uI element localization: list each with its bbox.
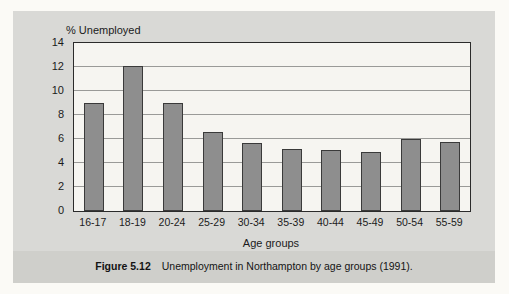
- x-axis-title: Age groups: [73, 237, 469, 249]
- bar: [242, 143, 262, 211]
- caption-band: Figure 5.12Unemployment in Northampton b…: [13, 251, 495, 283]
- bar-slot: [153, 43, 193, 211]
- x-axis-tick: 18-19: [119, 216, 146, 228]
- bar-slot: [74, 43, 114, 211]
- x-axis-tick-labels: 16-1718-1920-2425-2930-3435-3940-4445-49…: [73, 216, 469, 234]
- bar-slot: [193, 43, 233, 211]
- x-axis-tick: 55-59: [436, 216, 463, 228]
- bar-slot: [312, 43, 352, 211]
- bar-series: [74, 43, 470, 211]
- x-axis-tick: 50-54: [396, 216, 423, 228]
- x-axis-tick: 45-49: [357, 216, 384, 228]
- x-axis-tick: 35-39: [277, 216, 304, 228]
- y-axis-tick: 4: [58, 156, 64, 168]
- y-axis-tick: 0: [58, 204, 64, 216]
- bar-chart: % Unemployed 02468101214 16-1718-1920-24…: [13, 11, 495, 251]
- bar: [282, 149, 302, 211]
- bar: [440, 142, 460, 211]
- bar: [401, 139, 421, 211]
- y-axis-tick: 14: [52, 36, 64, 48]
- y-axis-tick: 12: [52, 60, 64, 72]
- figure-panel: % Unemployed 02468101214 16-1718-1920-24…: [13, 11, 495, 283]
- y-axis-tick: 2: [58, 180, 64, 192]
- figure-caption: Figure 5.12Unemployment in Northampton b…: [13, 260, 495, 272]
- bar: [163, 103, 183, 211]
- bar: [84, 103, 104, 211]
- bar-slot: [272, 43, 312, 211]
- bar-slot: [391, 43, 431, 211]
- y-axis-tick: 8: [58, 108, 64, 120]
- bar: [203, 132, 223, 211]
- y-axis-title: % Unemployed: [66, 24, 141, 36]
- y-axis-tick-labels: 02468101214: [13, 11, 73, 251]
- x-axis-tick: 30-34: [238, 216, 265, 228]
- bar-slot: [351, 43, 391, 211]
- x-axis-tick: 16-17: [79, 216, 106, 228]
- bar-slot: [232, 43, 272, 211]
- y-axis-tick: 6: [58, 132, 64, 144]
- y-axis-tick: 10: [52, 84, 64, 96]
- figure-caption-text: Unemployment in Northampton by age group…: [162, 260, 413, 272]
- bar-slot: [430, 43, 470, 211]
- bar: [361, 152, 381, 211]
- x-axis-tick: 25-29: [198, 216, 225, 228]
- plot-area: [73, 42, 471, 212]
- bar-slot: [114, 43, 154, 211]
- bar: [321, 150, 341, 211]
- x-axis-tick: 20-24: [159, 216, 186, 228]
- figure-caption-label: Figure 5.12: [95, 260, 150, 272]
- x-axis-tick: 40-44: [317, 216, 344, 228]
- bar: [123, 66, 143, 211]
